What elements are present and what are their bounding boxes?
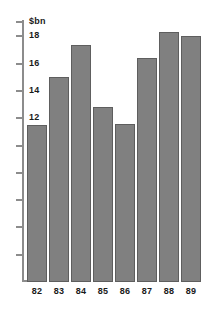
y-axis-tick [16,90,22,92]
bar [159,32,179,282]
y-axis-tick [16,226,22,228]
bar [27,125,47,282]
x-axis-label: 87 [137,287,157,296]
plot-area [26,20,202,282]
x-axis-label: 84 [71,287,91,296]
bar [181,36,201,282]
y-axis-tick [16,63,22,65]
x-axis-label: 88 [159,287,179,296]
bar [137,58,157,282]
bar [115,124,135,282]
bar [71,45,91,282]
y-axis-tick-top [16,21,22,23]
x-axis-label: 82 [27,287,47,296]
x-axis-label: 83 [49,287,69,296]
y-axis-tick [16,145,22,147]
y-axis-tick [16,254,22,256]
bar [93,107,113,282]
y-axis-tick [16,199,22,201]
y-axis-line [22,20,24,282]
x-axis-label: 86 [115,287,135,296]
bar [49,77,69,282]
y-axis-tick [16,35,22,37]
x-axis-label: 89 [181,287,201,296]
y-axis-tick [16,117,22,119]
y-axis-tick [16,172,22,174]
x-axis-label: 85 [93,287,113,296]
bar-chart: $bn 12141618 8283848586878889 [0,0,204,311]
